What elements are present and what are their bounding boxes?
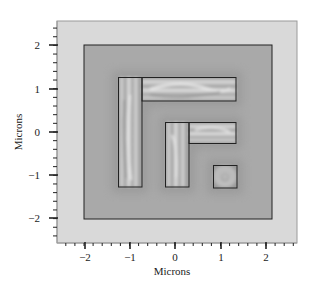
x-tick-label: 0 <box>172 251 178 263</box>
y-tick-label: 2 <box>35 39 41 51</box>
x-axis <box>57 242 297 249</box>
x-tick-label: −1 <box>124 251 136 263</box>
x-tick-label: −2 <box>79 251 91 263</box>
feature-intensity <box>118 77 237 188</box>
x-tick-label: 2 <box>263 251 269 263</box>
y-tick-label: −1 <box>28 169 40 181</box>
chart: 2 1 0 −1 −2 −2 −1 0 1 2 Microns Microns <box>0 0 314 295</box>
x-tick-labels: −2 −1 0 1 2 <box>79 251 269 263</box>
y-axis-label: Microns <box>12 114 24 151</box>
y-tick-label: −2 <box>28 212 40 224</box>
y-tick-labels: 2 1 0 −1 −2 <box>28 39 40 224</box>
y-axis <box>49 21 58 243</box>
x-axis-label: Microns <box>154 265 191 277</box>
y-tick-label: 0 <box>35 126 41 138</box>
x-tick-label: 1 <box>218 251 224 263</box>
y-tick-label: 1 <box>35 83 41 95</box>
